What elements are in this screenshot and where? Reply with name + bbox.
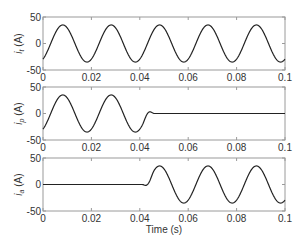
x-tick-label: 0.1 [278,142,292,153]
x-tick-label: 0.04 [130,72,150,83]
x-tick-label: 0.04 [130,142,150,153]
x-axis-label: Time (s) [146,224,182,235]
x-tick-label: 0.02 [82,72,102,83]
axes-box [43,17,285,70]
x-tick-label: 0.02 [82,213,102,224]
x-tick-label: 0.06 [178,72,198,83]
x-tick-label: 0.1 [278,213,292,224]
y-tick-label: 0 [35,108,41,119]
y-tick-label: 50 [30,12,42,23]
y-tick-label: -50 [27,135,42,146]
x-tick-label: 0.06 [178,142,198,153]
x-tick-label: 0.08 [227,72,247,83]
y-tick-label: -50 [27,65,42,76]
chart-canvas: 00.020.040.060.080.1500-50it (A)00.020.0… [0,0,307,246]
x-tick-label: 0.1 [278,72,292,83]
x-tick-label: 0.02 [82,142,102,153]
y-tick-label: 0 [35,38,41,49]
x-tick-label: 0 [40,142,46,153]
x-tick-label: 0.04 [130,213,150,224]
x-tick-label: 0.08 [227,142,247,153]
x-tick-label: 0.06 [178,213,198,224]
x-tick-label: 0.08 [227,213,247,224]
x-tick-label: 0 [40,72,46,83]
subplot-3: 00.020.040.060.080.1500-50ia (A)Time (s) [13,153,292,236]
y-axis-label: ip (A) [13,102,26,124]
y-axis-label: it (A) [13,33,25,53]
y-tick-label: -50 [27,206,42,217]
subplot-1: 00.020.040.060.080.1500-50it (A) [13,12,292,84]
subplot-2: 00.020.040.060.080.1500-50ip (A) [13,82,292,154]
y-tick-label: 50 [30,153,42,164]
x-tick-label: 0 [40,213,46,224]
figure: 00.020.040.060.080.1500-50it (A)00.020.0… [0,0,307,246]
y-tick-label: 50 [30,82,42,93]
y-axis-label: ia (A) [13,173,25,195]
y-tick-label: 0 [35,179,41,190]
